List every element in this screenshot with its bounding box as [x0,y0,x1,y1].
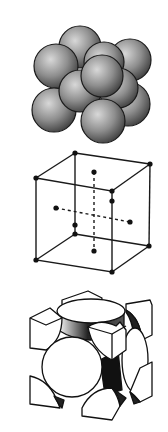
lattice-point [146,243,151,248]
face-center-point [53,205,58,210]
hard-sphere-model [0,0,168,145]
face-center-point [72,222,77,227]
lattice-point [33,257,38,262]
lattice-point [147,161,152,166]
atom [81,99,125,143]
cut-sphere-unit-cell [0,285,168,432]
lattice-point [109,269,114,274]
lattice-point-model [0,140,168,285]
lattice-point [33,175,38,180]
fcc-unit-cell-illustration [0,285,168,432]
face-center-point [109,198,114,203]
face-center-point [91,248,96,253]
fcc-lattice-cube-illustration [0,140,168,285]
face-center-point [127,219,132,224]
lattice-point [72,150,77,155]
lattice-point [109,188,114,193]
lattice-point [72,231,77,236]
atom [81,55,123,97]
fcc-sphere-packing-illustration [0,0,168,145]
face-center-point [91,169,96,174]
